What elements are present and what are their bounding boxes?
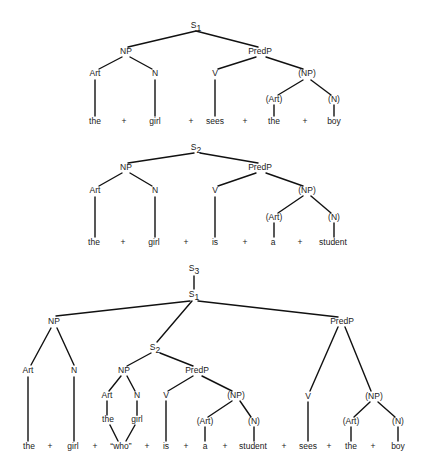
tree-node-label: (NP)	[365, 391, 383, 401]
tree-branch	[126, 425, 135, 441]
terminal-word: the	[268, 116, 280, 126]
tree-node-label: the	[102, 414, 114, 424]
terminal-word: the	[89, 116, 101, 126]
tree-s2: S2NPPredPArtNV(NP)(Art)(N)the+girl+is+a+…	[88, 142, 347, 247]
terminal-word: student	[319, 237, 348, 247]
tree-node-label: V	[212, 68, 218, 78]
word-boundary-plus: +	[327, 441, 332, 451]
tree-branch	[157, 301, 192, 342]
terminal-word: girl	[67, 441, 78, 451]
tree-node-label: S1	[189, 289, 200, 302]
word-boundary-plus: +	[93, 441, 98, 451]
tree-node-label: V	[163, 390, 169, 400]
tree-branch	[208, 401, 232, 417]
tree-branch	[218, 173, 256, 186]
terminal-word: is	[212, 237, 218, 247]
tree-branch	[354, 402, 370, 417]
terminal-word: sees	[206, 116, 224, 126]
tree-branch	[168, 376, 193, 391]
tree-branch	[99, 57, 122, 69]
node-subscript: 1	[194, 292, 199, 302]
tree-node-label: (Art)	[197, 416, 214, 426]
syntax-tree-diagram: S1NPPredPArtNV(NP)(Art)(N)the+girl+sees+…	[0, 0, 426, 476]
tree-node-label: N	[152, 185, 158, 195]
tree-node-label: (Art)	[343, 416, 360, 426]
word-boundary-plus: +	[243, 237, 248, 247]
node-subscript: 2	[155, 345, 160, 355]
tree-branch	[31, 328, 51, 365]
tree-node-label: Art	[23, 365, 35, 375]
tree-branch	[310, 327, 338, 391]
tree-node-label: NP	[120, 162, 132, 172]
tree-branch	[378, 402, 395, 417]
word-boundary-plus: +	[223, 441, 228, 451]
terminal-word: student	[239, 441, 268, 451]
tree-branch	[99, 173, 122, 186]
terminal-word: boy	[327, 116, 341, 126]
tree-node-label: PredP	[330, 316, 354, 326]
word-boundary-plus: +	[371, 441, 376, 451]
node-subscript: 3	[194, 266, 199, 276]
tree-node-label: girl	[131, 414, 142, 424]
tree-branch	[130, 173, 152, 186]
tree-node-label: Art	[90, 185, 102, 195]
word-boundary-plus: +	[243, 116, 248, 126]
tree-branch	[278, 80, 303, 95]
tree-node-label: NP	[48, 316, 60, 326]
word-boundary-plus: +	[189, 116, 194, 126]
terminal-word: the	[88, 237, 100, 247]
terminal-word: the	[345, 441, 357, 451]
tree-branch	[311, 196, 331, 213]
tree-node-label: S1	[191, 20, 202, 33]
tree-node-label: (N)	[248, 416, 260, 426]
word-boundary-plus: +	[298, 237, 303, 247]
tree-branch	[109, 376, 121, 391]
tree-node-label: PredP	[185, 365, 209, 375]
tree-node-label: N	[134, 390, 140, 400]
tree-branch	[266, 57, 303, 69]
tree-branch	[345, 327, 371, 391]
word-boundary-plus: +	[122, 116, 127, 126]
tree-s1: S1NPPredPArtNV(NP)(Art)(N)the+girl+sees+…	[89, 20, 342, 126]
tree-branch	[128, 31, 196, 47]
tree-node-label: Art	[102, 390, 114, 400]
tree-branch	[196, 31, 258, 47]
word-boundary-plus: +	[303, 116, 308, 126]
tree-branch	[160, 353, 193, 366]
tree-node-label: S3	[189, 263, 200, 276]
node-subscript: 2	[196, 145, 201, 155]
terminal-word: a	[203, 441, 208, 451]
terminal-word: girl	[148, 237, 159, 247]
tree-branch	[128, 153, 194, 163]
tree-node-label: (N)	[392, 416, 404, 426]
tree-node-label: PredP	[248, 162, 272, 172]
terminal-word: girl	[149, 116, 160, 126]
tree-branch	[127, 376, 135, 391]
tree-node-label: PredP	[248, 46, 272, 56]
word-boundary-plus: +	[184, 441, 189, 451]
tree-node-label: (N)	[328, 94, 340, 104]
tree-branch	[202, 376, 232, 391]
word-boundary-plus: +	[184, 237, 189, 247]
word-boundary-plus: +	[121, 237, 126, 247]
tree-node-label: V	[305, 391, 311, 401]
tree-branch	[56, 301, 190, 316]
tree-branch	[130, 57, 152, 69]
terminal-word: “who”	[110, 441, 131, 451]
tree-node-label: V	[212, 185, 218, 195]
tree-node-label: N	[71, 365, 77, 375]
word-boundary-plus: +	[282, 441, 287, 451]
terminal-word: a	[271, 237, 276, 247]
tree-branch	[311, 80, 331, 95]
tree-node-label: (NP)	[298, 68, 316, 78]
tree-node-label: NP	[118, 365, 130, 375]
tree-node-label: Art	[90, 68, 102, 78]
tree-node-label: (Art)	[266, 94, 283, 104]
word-boundary-plus: +	[48, 441, 53, 451]
tree-s3: S3S1NPPredPS2ArtNNPPredPArtNV(NP)V(NP)th…	[23, 263, 406, 451]
node-subscript: 1	[196, 23, 201, 33]
terminal-word: sees	[299, 441, 317, 451]
word-boundary-plus: +	[145, 441, 150, 451]
tree-branch	[278, 196, 303, 213]
tree-branch	[240, 401, 251, 417]
